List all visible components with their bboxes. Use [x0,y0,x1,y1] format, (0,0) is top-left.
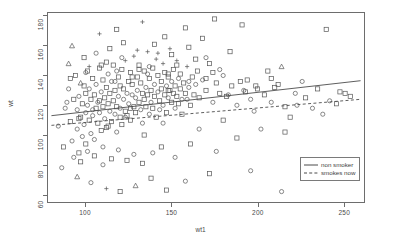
data-point [249,169,253,173]
data-point [200,36,204,40]
data-point [128,70,132,74]
data-point [75,127,79,131]
data-point [118,115,122,119]
data-point [149,88,153,92]
y-tick-mark [43,45,47,46]
data-point [226,93,230,97]
data-point [192,93,196,97]
data-point [207,172,211,176]
data-point [125,158,129,162]
data-point [175,63,179,67]
data-point [204,56,208,60]
data-point [151,151,155,155]
data-point [92,154,96,158]
data-point [158,99,162,103]
scatter-plot-figure: 6080100120140160180100150200250 wt wt1 n… [0,0,401,251]
data-point [115,130,119,134]
data-point [190,75,194,79]
y-tick-label: 180 [37,14,44,36]
legend-key-dashed-line [304,169,318,177]
data-point [230,84,234,88]
y-tick-mark [43,165,47,166]
data-point [338,90,342,94]
data-point [92,137,96,141]
data-point [103,96,107,100]
data-point [82,123,86,127]
data-point [218,67,222,71]
y-tick-mark [43,195,47,196]
data-point [178,72,182,76]
data-point [123,59,127,63]
data-point [103,117,107,121]
data-point [142,133,146,137]
data-point [334,102,338,106]
data-point [77,151,81,155]
data-point [73,73,77,77]
data-point [87,118,91,122]
data-point [324,27,328,31]
data-point [104,85,108,89]
data-point [120,56,124,60]
data-point [238,79,242,83]
data-point [123,109,127,113]
y-tick-mark [43,105,47,106]
legend-item-non-smoker: non smoker [304,161,355,169]
data-point [77,94,81,98]
data-point [89,181,93,185]
data-point [87,87,91,91]
data-point [130,75,134,79]
data-point [104,60,108,64]
data-point [183,91,187,95]
data-point [135,75,139,79]
data-point [142,69,146,73]
data-point [115,69,119,73]
data-point [99,90,103,94]
data-point [158,108,162,112]
data-point [152,42,156,46]
data-point [80,134,84,138]
data-point [106,124,110,128]
data-point [166,75,170,79]
data-point [166,88,170,92]
data-point [187,85,191,89]
data-point [164,111,168,115]
data-point [151,106,155,110]
data-point [89,97,93,101]
data-point [142,97,146,101]
data-point [80,102,84,106]
data-point [120,123,124,127]
data-point [163,93,167,97]
data-point [149,176,153,180]
data-point [106,72,110,76]
data-point [218,91,222,95]
x-tick-mark [171,203,172,207]
data-point [161,103,165,107]
data-point [321,112,325,116]
data-point [97,66,101,70]
data-point [187,45,191,49]
data-point [109,157,113,161]
data-point [171,67,175,71]
data-point [139,108,143,112]
data-point [149,100,153,104]
data-point [255,87,259,91]
data-point [283,130,287,134]
data-point [242,88,246,92]
data-point [154,57,158,61]
data-point [262,93,266,97]
y-tick-label: 80 [37,164,44,186]
data-point [101,163,105,167]
data-point [66,61,71,66]
data-point [240,23,244,27]
data-point [101,145,105,149]
data-point [134,96,138,100]
data-point [140,121,144,125]
data-point [207,62,211,66]
y-tick-mark [43,15,47,16]
data-point [130,93,134,97]
data-point [60,166,64,170]
data-point [214,81,218,85]
data-point [173,84,177,88]
data-point [61,145,65,149]
data-point [99,128,103,132]
